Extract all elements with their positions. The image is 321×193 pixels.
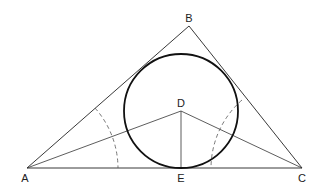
label-e: E: [177, 172, 184, 184]
bisector-cd: [181, 111, 302, 168]
label-a: A: [21, 172, 29, 184]
side-bc: [189, 26, 302, 168]
construction-arc-a: [95, 108, 118, 168]
label-b: B: [185, 12, 192, 24]
side-ab: [27, 26, 189, 168]
label-d: D: [177, 97, 185, 109]
label-c: C: [298, 172, 306, 184]
incircle-diagram: B A C D E: [0, 0, 321, 193]
